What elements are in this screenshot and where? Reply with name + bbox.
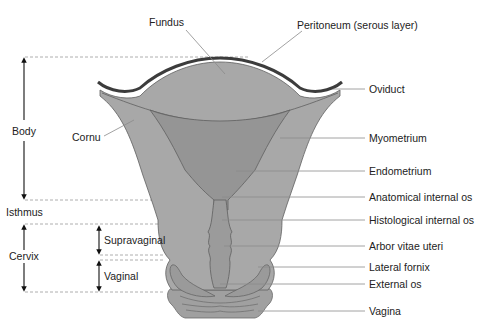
label-arbor-vitae-uteri: Arbor vitae uteri xyxy=(369,240,443,252)
label-myometrium: Myometrium xyxy=(369,132,427,144)
label-endometrium: Endometrium xyxy=(369,165,431,177)
label-cervix: Cervix xyxy=(9,250,39,262)
label-oviduct: Oviduct xyxy=(369,83,405,95)
label-external-os: External os xyxy=(369,278,422,290)
vagina-shape xyxy=(168,287,273,318)
label-isthmus: Isthmus xyxy=(6,206,43,218)
label-anatomical-internal-os: Anatomical internal os xyxy=(369,191,472,203)
label-cornu: Cornu xyxy=(72,131,101,143)
label-fundus: Fundus xyxy=(149,16,184,28)
label-supravaginal: Supravaginal xyxy=(104,234,165,246)
label-histological-internal-os: Histological internal os xyxy=(369,214,474,226)
label-lateral-fornix: Lateral fornix xyxy=(369,261,430,273)
label-peritoneum: Peritoneum (serous layer) xyxy=(297,19,418,31)
leader-peritoneum xyxy=(262,31,302,62)
label-vaginal: Vaginal xyxy=(104,270,138,282)
label-body: Body xyxy=(12,125,36,137)
label-vagina: Vagina xyxy=(369,305,401,317)
